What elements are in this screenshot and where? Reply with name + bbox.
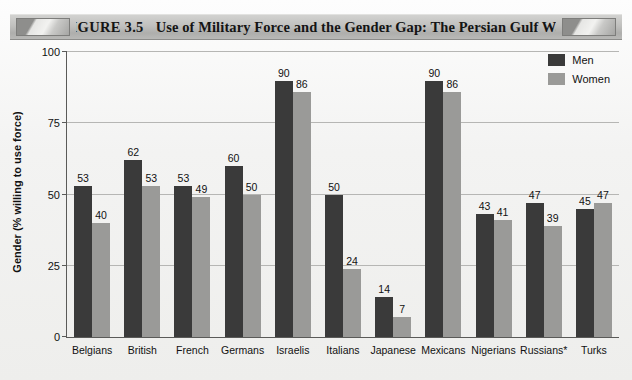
bar-value-label: 39	[547, 212, 559, 224]
plot-area: 0255075100 5340Belgians6253British5349Fr…	[66, 52, 619, 338]
bar-value-label: 50	[246, 181, 258, 193]
figure-banner-text: FIGURE 3.5 Use of Military Force and the…	[76, 19, 556, 36]
bar-men: 53	[74, 186, 92, 337]
bar-women: 86	[293, 92, 311, 337]
legend-swatch	[548, 54, 565, 66]
legend-label: Men	[572, 54, 593, 66]
bar-group: 5024Italians	[318, 52, 368, 337]
bar-men: 47	[526, 203, 544, 337]
figure-title: Use of Military Force and the Gender Gap…	[156, 19, 556, 36]
bar-group: 147Japanese	[368, 52, 418, 337]
decorative-bar-icon-right	[562, 18, 616, 36]
x-axis-category-label: British	[128, 344, 157, 356]
x-axis-category-label: Italians	[326, 344, 359, 356]
bar-value-label: 53	[77, 172, 89, 184]
bar-group: 5349French	[167, 52, 217, 337]
bar-women: 49	[192, 197, 210, 337]
bar-value-label: 40	[95, 209, 107, 221]
chart-legend: MenWomen	[548, 54, 610, 85]
y-axis-title-label: Gender (% willing to use force)	[11, 111, 23, 272]
bar-group: 5340Belgians	[67, 52, 117, 337]
bar-men: 90	[425, 81, 443, 338]
x-axis-category-label: Russians*	[520, 344, 567, 356]
bar-men: 14	[375, 297, 393, 337]
bar-men: 45	[576, 209, 594, 337]
bar-group: 9086Israelis	[268, 52, 318, 337]
y-axis-tick-label: 50	[48, 189, 60, 201]
bar-men: 50	[325, 195, 343, 338]
legend-swatch	[548, 73, 565, 85]
x-axis-category-label: Turks	[581, 344, 607, 356]
y-axis-tick-label: 25	[48, 260, 60, 272]
bar-value-label: 90	[278, 67, 290, 79]
bar-men: 60	[225, 166, 243, 337]
bar-value-label: 43	[479, 200, 491, 212]
bar-value-label: 62	[127, 146, 139, 158]
y-axis-title: Gender (% willing to use force)	[6, 46, 28, 338]
x-axis-category-label: Germans	[221, 344, 264, 356]
bar-group: 4739Russians*	[519, 52, 569, 337]
bar-groups: 5340Belgians6253British5349French6050Ger…	[67, 52, 619, 337]
bar-value-label: 86	[447, 78, 459, 90]
bar-group: 6253British	[117, 52, 167, 337]
bar-value-label: 53	[145, 172, 157, 184]
bar-value-label: 60	[228, 152, 240, 164]
bar-women: 7	[393, 317, 411, 337]
legend-item: Women	[548, 73, 610, 85]
bar-value-label: 90	[429, 67, 441, 79]
bar-value-label: 53	[178, 172, 190, 184]
y-axis-tick-label: 0	[54, 331, 60, 343]
bar-value-label: 24	[346, 255, 358, 267]
y-axis-tick-label: 75	[48, 117, 60, 129]
bar-women: 86	[443, 92, 461, 337]
chart: Gender (% willing to use force) 02550751…	[10, 46, 622, 366]
bar-women: 50	[243, 195, 261, 338]
figure-banner: FIGURE 3.5 Use of Military Force and the…	[10, 14, 622, 40]
bar-value-label: 41	[497, 206, 509, 218]
bar-value-label: 14	[378, 283, 390, 295]
x-axis-category-label: Israelis	[276, 344, 309, 356]
bar-women: 53	[142, 186, 160, 337]
legend-label: Women	[572, 73, 610, 85]
bar-group: 4547Turks	[569, 52, 619, 337]
bar-value-label: 50	[328, 181, 340, 193]
bar-women: 24	[343, 269, 361, 337]
bar-value-label: 86	[296, 78, 308, 90]
figure-number: FIGURE 3.5	[76, 19, 144, 36]
bar-value-label: 7	[399, 303, 405, 315]
bar-value-label: 45	[579, 195, 591, 207]
bar-men: 90	[275, 81, 293, 338]
x-axis-category-label: Japanese	[370, 344, 416, 356]
decorative-bar-icon-left	[16, 18, 70, 36]
bar-women: 41	[494, 220, 512, 337]
bar-women: 39	[544, 226, 562, 337]
x-axis-category-label: Mexicans	[421, 344, 465, 356]
bar-value-label: 47	[597, 189, 609, 201]
y-axis-tick-label: 100	[42, 46, 60, 58]
x-axis-category-label: Belgians	[72, 344, 112, 356]
bar-group: 4341Nigerians	[468, 52, 518, 337]
bar-men: 43	[476, 214, 494, 337]
bar-men: 62	[124, 160, 142, 337]
bar-women: 47	[594, 203, 612, 337]
bar-group: 6050Germans	[218, 52, 268, 337]
bar-value-label: 49	[196, 183, 208, 195]
bar-group: 9086Mexicans	[418, 52, 468, 337]
bar-men: 53	[174, 186, 192, 337]
bar-women: 40	[92, 223, 110, 337]
x-axis-category-label: Nigerians	[471, 344, 515, 356]
bar-value-label: 47	[529, 189, 541, 201]
x-axis-category-label: French	[176, 344, 209, 356]
legend-item: Men	[548, 54, 610, 66]
